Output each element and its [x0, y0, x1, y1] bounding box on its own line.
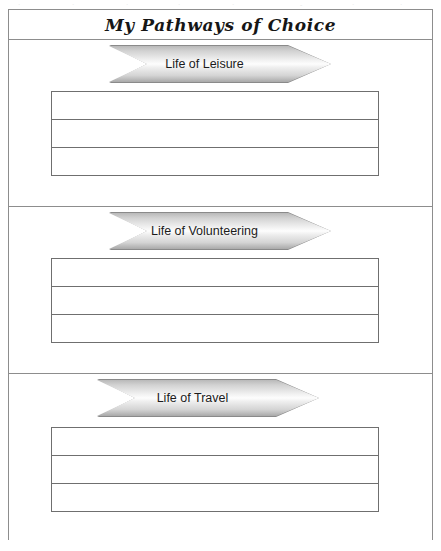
- table-row[interactable]: [52, 428, 379, 456]
- response-cell[interactable]: [52, 287, 379, 315]
- arrow-row-leisure: Life of Leisure: [9, 40, 432, 86]
- scan-artifacts: · · · · · - · ·: [0, 0, 441, 9]
- response-cell[interactable]: [52, 315, 379, 343]
- section-travel: Life of Travel: [9, 374, 432, 540]
- table-row[interactable]: [52, 148, 379, 176]
- response-table-leisure: [51, 91, 379, 176]
- scan-artifact-mark: ·: [18, 1, 20, 9]
- response-cell[interactable]: [52, 92, 379, 120]
- arrow-row-travel: Life of Travel: [9, 374, 432, 420]
- scan-artifact-mark: ·: [232, 1, 234, 9]
- pathway-arrow-travel[interactable]: Life of Travel: [97, 380, 319, 416]
- arrow-label-travel: Life of Travel: [157, 391, 229, 405]
- arrow-label-volunteering: Life of Volunteering: [151, 224, 258, 238]
- scan-artifact-mark: ·: [352, 1, 354, 9]
- title-band: My Pathways of Choice: [9, 10, 432, 40]
- response-cell[interactable]: [52, 428, 379, 456]
- response-table-volunteering: [51, 258, 379, 343]
- section-leisure: Life of Leisure: [9, 40, 432, 207]
- table-row[interactable]: [52, 315, 379, 343]
- table-row[interactable]: [52, 456, 379, 484]
- scan-artifact-mark: -: [300, 1, 302, 9]
- response-cell[interactable]: [52, 148, 379, 176]
- pathway-arrow-leisure[interactable]: Life of Leisure: [109, 46, 331, 82]
- table-row[interactable]: [52, 120, 379, 148]
- pathway-arrow-volunteering[interactable]: Life of Volunteering: [109, 213, 331, 249]
- response-cell[interactable]: [52, 456, 379, 484]
- table-row[interactable]: [52, 259, 379, 287]
- response-table-travel: [51, 427, 379, 512]
- worksheet-frame: My Pathways of Choice Life of Leisure Li…: [8, 9, 433, 540]
- response-cell[interactable]: [52, 484, 379, 512]
- page-title: My Pathways of Choice: [105, 15, 336, 35]
- response-cell[interactable]: [52, 259, 379, 287]
- scan-artifact-mark: ·: [400, 1, 402, 9]
- arrow-label-leisure: Life of Leisure: [165, 57, 244, 71]
- scan-artifact-mark: ·: [126, 1, 128, 9]
- scan-artifact-mark: ·: [178, 1, 180, 9]
- scan-artifact-mark: ·: [72, 1, 74, 9]
- section-volunteering: Life of Volunteering: [9, 207, 432, 374]
- arrow-row-volunteering: Life of Volunteering: [9, 207, 432, 253]
- response-cell[interactable]: [52, 120, 379, 148]
- table-row[interactable]: [52, 92, 379, 120]
- table-row[interactable]: [52, 287, 379, 315]
- table-row[interactable]: [52, 484, 379, 512]
